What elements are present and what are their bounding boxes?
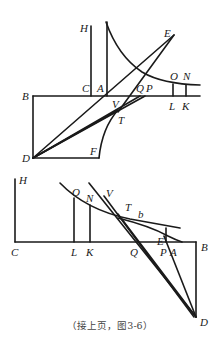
label-k: K <box>181 100 190 112</box>
line-td <box>118 214 196 317</box>
label-f: F <box>89 145 97 157</box>
label-t: T <box>125 201 132 213</box>
bottom-diagram: H O N V T b C L K Q E P A B D <box>11 174 208 328</box>
label-h: H <box>79 22 89 34</box>
line-te <box>118 35 174 112</box>
label-l: L <box>168 100 175 112</box>
label-q: Q <box>130 246 138 258</box>
label-b: B <box>201 241 208 253</box>
label-d: D <box>21 152 30 164</box>
label-t: T <box>118 114 125 126</box>
label-b: B <box>22 90 29 102</box>
label-l: L <box>70 246 77 258</box>
label-a: A <box>169 246 177 258</box>
line-pd <box>164 236 196 317</box>
label-p: P <box>145 82 153 94</box>
label-b-small: b <box>138 208 144 220</box>
label-n: N <box>182 70 191 82</box>
label-h: H <box>18 174 28 186</box>
label-o: O <box>170 70 178 82</box>
curve-tea <box>118 218 182 242</box>
label-a: A <box>96 82 104 94</box>
label-c: C <box>11 246 19 258</box>
label-e: E <box>163 27 171 39</box>
figure-caption: （接上页，图3-6） <box>60 318 160 332</box>
label-p: P <box>159 246 167 258</box>
label-d: D <box>199 316 208 328</box>
label-o: O <box>72 186 80 198</box>
label-v: V <box>106 187 114 199</box>
label-k: K <box>85 246 94 258</box>
geometry-figure: H E C A Q P O N B V L K T D F <box>0 0 220 356</box>
top-diagram: H E C A Q P O N B V L K T D F <box>21 22 200 164</box>
label-q: Q <box>136 82 144 94</box>
label-n: N <box>85 192 94 204</box>
line-dt <box>33 110 118 158</box>
label-c: C <box>82 82 90 94</box>
